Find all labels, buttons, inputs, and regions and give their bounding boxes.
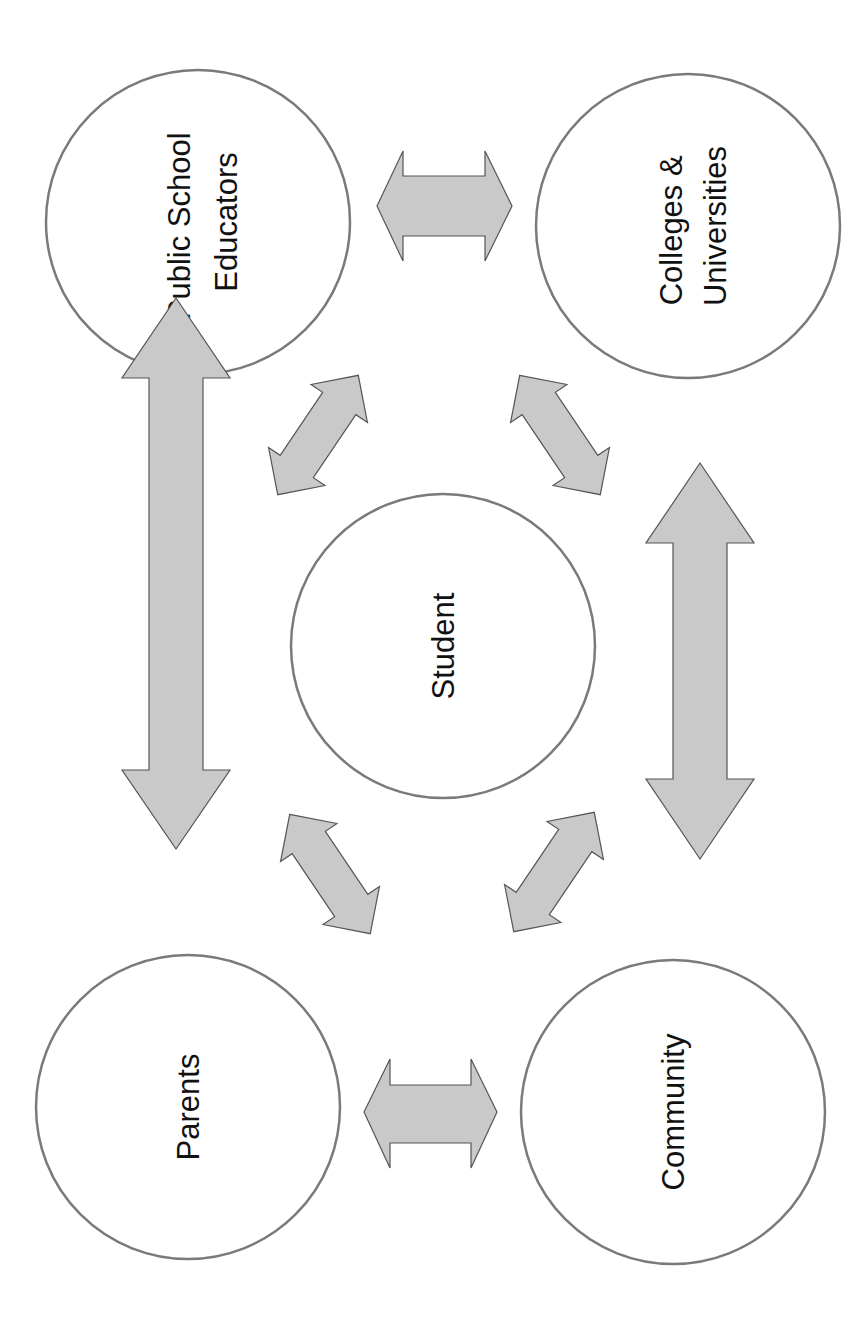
node-label: Parents [171,1054,206,1161]
double-arrow-icon [250,356,387,513]
node-student: Student [291,494,595,798]
stakeholder-diagram: Public School Educators Colleges & Unive… [0,0,850,1327]
node-parents: Parents [36,955,340,1259]
double-arrow-icon [486,793,623,950]
node-label: Community [656,1033,691,1190]
double-arrow-icon [492,356,629,513]
node-label-line: Educators [209,152,244,292]
node-label-line: Colleges & [654,155,689,305]
double-arrow-icon [364,1059,497,1168]
double-arrow-icon [122,298,230,849]
node-community: Community [521,960,825,1264]
double-arrow-icon [646,463,754,859]
node-public-school-educators: Public School Educators [46,70,350,374]
double-arrow-icon [262,795,399,952]
node-colleges-universities: Colleges & Universities [536,74,840,378]
double-arrow-icon [377,151,512,261]
node-label-line: Universities [698,146,733,306]
node-label: Student [426,592,461,699]
node-label-line: Public School [162,132,197,320]
